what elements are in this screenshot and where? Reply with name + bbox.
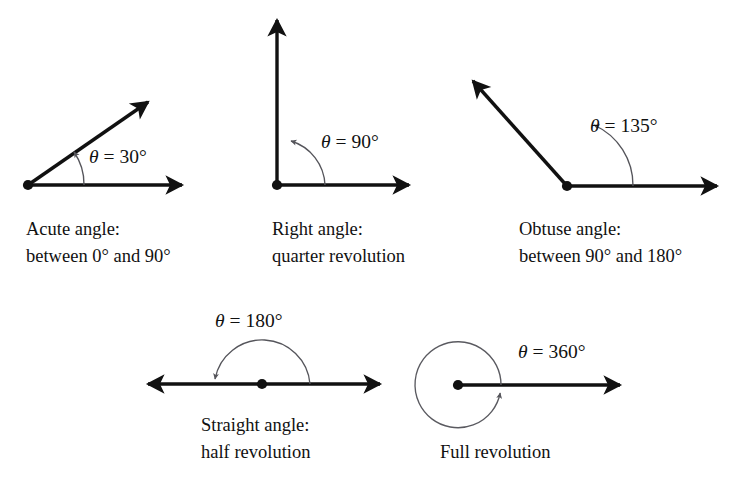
- straight-caption-line1: Straight angle:: [201, 415, 309, 435]
- obtuse-theta-value: 135°: [621, 115, 658, 136]
- angle-diagram-canvas: θ=30° Acute angle: between 0° and 90° θ=…: [0, 0, 749, 477]
- figure-obtuse-angle: θ=135° Obtuse angle: between 90° and 180…: [473, 81, 717, 266]
- full-vertex-dot: [453, 380, 463, 390]
- acute-angle-arc: [74, 152, 84, 185]
- straight-theta-label: θ=180°: [215, 310, 283, 331]
- straight-vertex-dot: [257, 379, 267, 389]
- full-theta-label: θ=360°: [518, 341, 586, 362]
- obtuse-equals: =: [605, 115, 616, 136]
- full-equals: =: [533, 341, 544, 362]
- acute-caption-line2: between 0° and 90°: [26, 246, 171, 266]
- obtuse-caption-line2: between 90° and 180°: [519, 246, 682, 266]
- straight-theta-value: 180°: [246, 310, 283, 331]
- straight-angle-arc: [215, 340, 310, 384]
- acute-theta-label: θ=30°: [89, 146, 147, 167]
- acute-vertex-dot: [23, 180, 33, 190]
- right-vertex-dot: [272, 180, 282, 190]
- right-equals: =: [336, 131, 347, 152]
- obtuse-caption-line1: Obtuse angle:: [519, 219, 621, 239]
- obtuse-theta-label: θ=135°: [590, 115, 658, 136]
- full-theta-value: 360°: [549, 341, 586, 362]
- figure-right-angle: θ=90° Right angle: quarter revolution: [272, 20, 409, 266]
- acute-caption-line1: Acute angle:: [26, 219, 120, 239]
- figure-full-revolution: θ=360° Full revolution: [415, 341, 620, 462]
- obtuse-theta-symbol: θ: [590, 115, 600, 136]
- acute-terminal-ray: [28, 102, 148, 185]
- full-caption-line1: Full revolution: [440, 442, 551, 462]
- straight-equals: =: [230, 310, 241, 331]
- acute-equals: =: [104, 146, 115, 167]
- obtuse-terminal-ray: [473, 81, 567, 186]
- right-theta-label: θ=90°: [321, 131, 379, 152]
- right-caption-line2: quarter revolution: [272, 246, 405, 266]
- right-caption-line1: Right angle:: [272, 219, 363, 239]
- acute-theta-value: 30°: [120, 146, 147, 167]
- right-theta-symbol: θ: [321, 131, 331, 152]
- acute-theta-symbol: θ: [89, 146, 99, 167]
- straight-theta-symbol: θ: [215, 310, 225, 331]
- right-theta-value: 90°: [352, 131, 379, 152]
- figure-straight-angle: θ=180° Straight angle: half revolution: [148, 310, 380, 462]
- right-angle-arc: [291, 141, 325, 185]
- full-theta-symbol: θ: [518, 341, 528, 362]
- figure-acute-angle: θ=30° Acute angle: between 0° and 90°: [23, 102, 182, 266]
- straight-caption-line2: half revolution: [201, 442, 310, 462]
- angle-types-diagram: θ=30° Acute angle: between 0° and 90° θ=…: [0, 0, 749, 477]
- obtuse-vertex-dot: [562, 181, 572, 191]
